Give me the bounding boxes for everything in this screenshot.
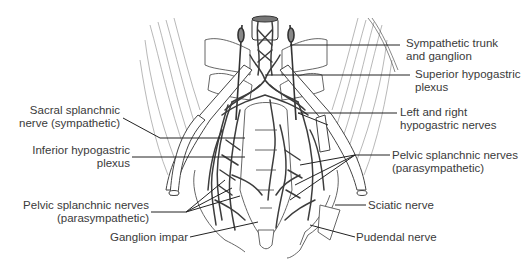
label-text: Pelvic splanchnic nerves	[23, 199, 149, 212]
label-ganglion-impar: Ganglion impar	[110, 231, 188, 244]
label-pelvic-splanchnic-left: Pelvic splanchnic nerves (parasympatheti…	[23, 199, 149, 225]
label-text: plexus	[32, 157, 130, 170]
label-text: Left and right	[400, 106, 497, 119]
label-sacral-splanchnic-nerve: Sacral splanchnic nerve (sympathetic)	[19, 104, 120, 130]
label-sciatic-nerve: Sciatic nerve	[368, 199, 434, 212]
label-text: (parasympathetic)	[23, 212, 149, 225]
label-pudendal-nerve: Pudendal nerve	[356, 231, 437, 244]
label-hypogastric-nerves: Left and right hypogastric nerves	[400, 106, 497, 132]
label-text: and ganglion	[406, 50, 498, 63]
label-text: nerve (sympathetic)	[19, 117, 120, 130]
pelvic-nerves-diagram: Sympathetic trunk and ganglion Superior …	[0, 0, 532, 263]
label-text: Sacral splanchnic	[19, 104, 120, 117]
label-text: Pudendal nerve	[356, 231, 437, 244]
label-pelvic-splanchnic-right: Pelvic splanchnic nerves (parasympatheti…	[392, 149, 518, 175]
label-text: Superior hypogastric	[415, 68, 520, 81]
label-text: Ganglion impar	[110, 231, 188, 244]
label-text: Pelvic splanchnic nerves	[392, 149, 518, 162]
label-inferior-hypogastric-plexus: Inferior hypogastric plexus	[32, 144, 130, 170]
label-sympathetic-trunk: Sympathetic trunk and ganglion	[406, 37, 498, 63]
label-text: Sciatic nerve	[368, 199, 434, 212]
label-text: plexus	[415, 81, 520, 94]
label-text: hypogastric nerves	[400, 119, 497, 132]
leader-ganglion-impar	[190, 222, 258, 237]
label-text: Sympathetic trunk	[406, 37, 498, 50]
label-text: Inferior hypogastric	[32, 144, 130, 157]
label-superior-hypogastric-plexus: Superior hypogastric plexus	[415, 68, 520, 94]
label-text: (parasympathetic)	[392, 162, 518, 175]
aorta	[252, 16, 278, 40]
